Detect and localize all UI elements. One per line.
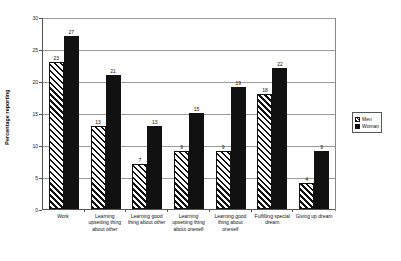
bar-column: 4 — [299, 18, 314, 209]
x-axis-category-label: Giving up dream — [293, 213, 335, 259]
plot-area: 23271321713915919182249 — [42, 18, 335, 210]
x-axis-category-label: Fulfilling specialdream — [251, 213, 293, 259]
x-axis-labels: WorkLearningupsetting thingabout otherLe… — [42, 213, 335, 259]
bar-group: 919 — [210, 18, 252, 209]
x-axis-category-label: Learningupsetting thingabout other — [84, 213, 126, 259]
x-axis-category-label: Learningupsetting thingabout oneself — [168, 213, 210, 259]
bar-value-label: 4 — [305, 176, 308, 182]
bar-column: 18 — [257, 18, 272, 209]
legend-item-woman: Woman — [355, 123, 379, 129]
bar-column: 9 — [174, 18, 189, 209]
bar-value-label: 21 — [110, 68, 116, 74]
legend: Men Woman — [352, 112, 382, 133]
bar-column: 7 — [132, 18, 147, 209]
bar-column: 22 — [272, 18, 287, 209]
bar-column: 13 — [91, 18, 106, 209]
legend-swatch-woman-icon — [355, 124, 360, 129]
bar-men[interactable] — [132, 164, 147, 209]
bar-woman[interactable] — [231, 87, 246, 209]
legend-label-woman: Woman — [362, 123, 379, 129]
x-axis-tick-mark — [167, 209, 168, 212]
bar-value-label: 7 — [138, 157, 141, 163]
bar-value-label: 9 — [320, 144, 323, 150]
y-axis-tick-label: 30 — [14, 15, 38, 21]
bar-woman[interactable] — [314, 151, 329, 209]
bar-men[interactable] — [299, 183, 314, 209]
bar-value-label: 27 — [69, 29, 75, 35]
x-axis-tick-mark — [251, 209, 252, 212]
bar-column: 9 — [314, 18, 329, 209]
y-axis-title: Percentage reporting — [4, 89, 10, 144]
legend-item-men: Men — [355, 116, 379, 122]
bar-men[interactable] — [49, 62, 64, 209]
y-axis-tick-label: 20 — [14, 79, 38, 85]
bar-woman[interactable] — [147, 126, 162, 209]
plot-right-edge — [335, 18, 336, 211]
x-axis-category-label: Learning goodthing aboutoneself — [209, 213, 251, 259]
bar-woman[interactable] — [106, 75, 121, 209]
bar-group: 49 — [293, 18, 335, 209]
bar-group: 915 — [168, 18, 210, 209]
bar-group: 713 — [126, 18, 168, 209]
bar-men[interactable] — [257, 94, 272, 209]
bar-value-label: 13 — [152, 119, 158, 125]
legend-label-men: Men — [362, 116, 372, 122]
bar-woman[interactable] — [64, 36, 79, 209]
y-axis-tick-label: 25 — [14, 47, 38, 53]
x-axis-tick-mark — [125, 209, 126, 212]
y-axis-tick-label: 15 — [14, 111, 38, 117]
y-axis-tick-label: 10 — [14, 143, 38, 149]
bar-value-label: 18 — [262, 87, 268, 93]
bar-column: 23 — [49, 18, 64, 209]
bar-group: 1321 — [85, 18, 127, 209]
x-axis-category-label: Learning goodthing about other — [126, 213, 168, 259]
y-axis-tick-mark — [39, 178, 42, 179]
y-axis-tick-mark — [39, 82, 42, 83]
x-axis-tick-mark — [292, 209, 293, 212]
bar-chart: Percentage reporting 2327132171391591918… — [0, 0, 401, 261]
x-axis-tick-mark — [84, 209, 85, 212]
bar-groups: 23271321713915919182249 — [43, 18, 335, 209]
bar-men[interactable] — [91, 126, 106, 209]
bar-group: 2327 — [43, 18, 85, 209]
bar-column: 27 — [64, 18, 79, 209]
bar-woman[interactable] — [272, 68, 287, 209]
bar-column: 13 — [147, 18, 162, 209]
bar-value-label: 9 — [180, 144, 183, 150]
bar-group: 1822 — [252, 18, 294, 209]
y-axis-tick-mark — [39, 50, 42, 51]
y-axis-tick-label: 0 — [14, 207, 38, 213]
bar-value-label: 23 — [54, 55, 60, 61]
bar-column: 9 — [216, 18, 231, 209]
bar-column: 15 — [189, 18, 204, 209]
bar-men[interactable] — [216, 151, 231, 209]
x-axis-tick-mark — [209, 209, 210, 212]
y-axis-tick-label: 5 — [14, 175, 38, 181]
bar-column: 21 — [106, 18, 121, 209]
bar-column: 19 — [231, 18, 246, 209]
bar-value-label: 22 — [277, 61, 283, 67]
bar-men[interactable] — [174, 151, 189, 209]
y-axis-tick-mark — [39, 114, 42, 115]
bar-value-label: 13 — [95, 119, 101, 125]
bar-value-label: 9 — [222, 144, 225, 150]
bar-woman[interactable] — [189, 113, 204, 209]
y-axis-tick-mark — [39, 146, 42, 147]
legend-swatch-men-icon — [355, 117, 360, 122]
y-axis-tick-mark — [39, 210, 42, 211]
x-axis-category-label: Work — [42, 213, 84, 259]
bar-value-label: 15 — [194, 106, 200, 112]
y-axis-tick-mark — [39, 18, 42, 19]
bar-value-label: 19 — [235, 80, 241, 86]
